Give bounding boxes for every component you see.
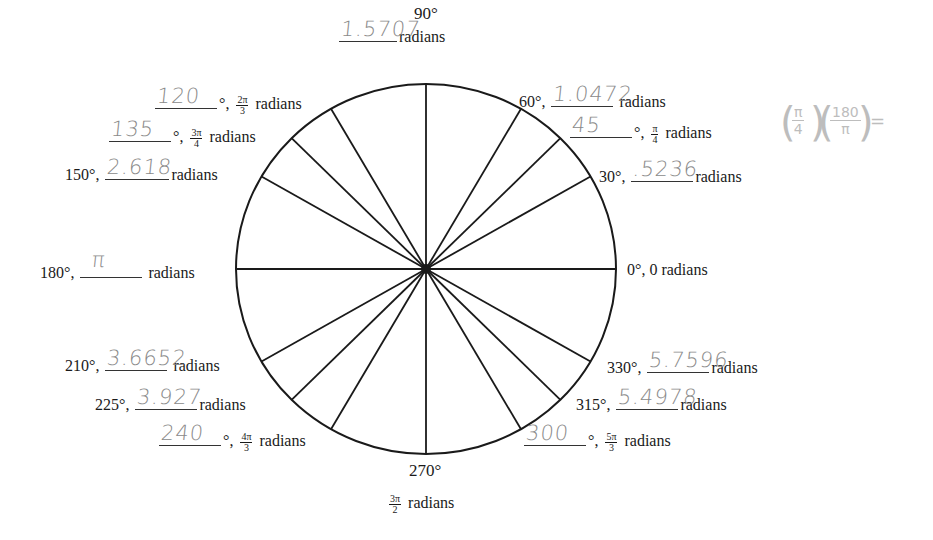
label-225: 225°, 3.927radians xyxy=(95,393,246,414)
handwritten-answer-210: 3.6652 xyxy=(106,348,188,369)
spoke-60-deg xyxy=(426,109,521,269)
answer-blank-180[interactable]: π xyxy=(80,261,142,278)
handwritten-answer-45: 45 xyxy=(571,115,602,136)
answer-blank-150[interactable]: 2.618 xyxy=(105,163,169,180)
answer-blank-120[interactable]: 120 xyxy=(155,92,217,109)
label-330: 330°, 5.7596radians xyxy=(607,356,758,377)
fraction-3pi-over-4: 3π4 xyxy=(190,128,202,149)
label-0: 0°, 0 radians xyxy=(627,261,708,279)
answer-blank-330[interactable]: 5.7596 xyxy=(647,356,709,373)
handwritten-answer-90: 1.5707 xyxy=(340,19,422,40)
spoke-330-deg xyxy=(426,269,591,362)
handwritten-answer-315: 5.4978 xyxy=(617,387,699,408)
answer-blank-90[interactable]: 1.5707 xyxy=(339,25,397,42)
spoke-120-deg xyxy=(331,109,426,269)
scratch-note: ( π 4 ) ( 180 π ) = xyxy=(780,98,920,158)
handwritten-answer-240: 240 xyxy=(160,423,205,444)
answer-blank-45[interactable]: 45 xyxy=(570,121,632,138)
label-300: 300°, 5π3 radians xyxy=(522,429,671,453)
answer-blank-240[interactable]: 240 xyxy=(159,429,221,446)
handwritten-answer-60: 1.0472 xyxy=(552,84,634,105)
center-point xyxy=(421,264,431,274)
label-270-deg: 270° xyxy=(409,462,441,480)
spoke-150-deg xyxy=(262,177,427,270)
answer-blank-135[interactable]: 135 xyxy=(109,125,171,142)
spoke-240-deg xyxy=(331,269,426,429)
fraction-2pi-over-3: 2π3 xyxy=(236,95,248,116)
handwritten-answer-135: 135 xyxy=(110,119,155,140)
note-equals: = xyxy=(870,110,885,131)
answer-blank-210[interactable]: 3.6652 xyxy=(105,354,167,371)
label-120: 120°, 2π3 radians xyxy=(153,92,302,116)
answer-blank-30[interactable]: .5236 xyxy=(631,165,693,182)
spoke-300-deg xyxy=(426,269,521,429)
fraction-5pi-over-3: 5π3 xyxy=(605,432,617,453)
label-135: 135°, 3π4 radians xyxy=(107,125,256,149)
answer-blank-60[interactable]: 1.0472 xyxy=(551,90,613,107)
handwritten-answer-300: 300 xyxy=(525,423,570,444)
label-60: 60°, 1.0472 radians xyxy=(519,90,666,111)
fraction-3pi-over-2: 3π2 xyxy=(389,494,401,515)
label-30: 30°, .5236radians xyxy=(599,165,742,186)
label-315: 315°, 5.4978radians xyxy=(576,393,727,414)
fraction-pi-over-4: π4 xyxy=(651,124,658,145)
handwritten-answer-180: π xyxy=(91,250,107,271)
note-fraction-pi-over-4: π 4 xyxy=(792,104,804,137)
label-240: 240°, 4π3 radians xyxy=(157,429,306,453)
label-150: 150°, 2.618radians xyxy=(65,163,218,184)
handwritten-answer-225: 3.927 xyxy=(136,387,203,408)
label-90-radians: 1.5707radians xyxy=(337,25,445,46)
handwritten-answer-150: 2.618 xyxy=(106,157,173,178)
label-210: 210°, 3.6652 radians xyxy=(65,354,220,375)
label-45: 45°, π4 radians xyxy=(568,121,712,145)
answer-blank-315[interactable]: 5.4978 xyxy=(616,393,678,410)
handwritten-answer-30: .5236 xyxy=(632,159,699,180)
answer-blank-300[interactable]: 300 xyxy=(524,429,586,446)
label-270-radians: 3π2 radians xyxy=(386,494,454,515)
note-fraction-180-over-pi: 180 π xyxy=(830,104,861,137)
spoke-30-deg xyxy=(426,177,591,270)
spoke-225-deg xyxy=(292,269,426,400)
spoke-45-deg xyxy=(426,138,560,269)
handwritten-answer-120: 120 xyxy=(156,86,201,107)
fraction-4pi-over-3: 4π3 xyxy=(240,432,252,453)
spoke-315-deg xyxy=(426,269,560,400)
handwritten-answer-330: 5.7596 xyxy=(648,350,730,371)
answer-blank-225[interactable]: 3.927 xyxy=(135,393,197,410)
spoke-210-deg xyxy=(262,269,427,362)
label-180: 180°, π radians xyxy=(40,261,195,282)
spoke-135-deg xyxy=(292,138,426,269)
